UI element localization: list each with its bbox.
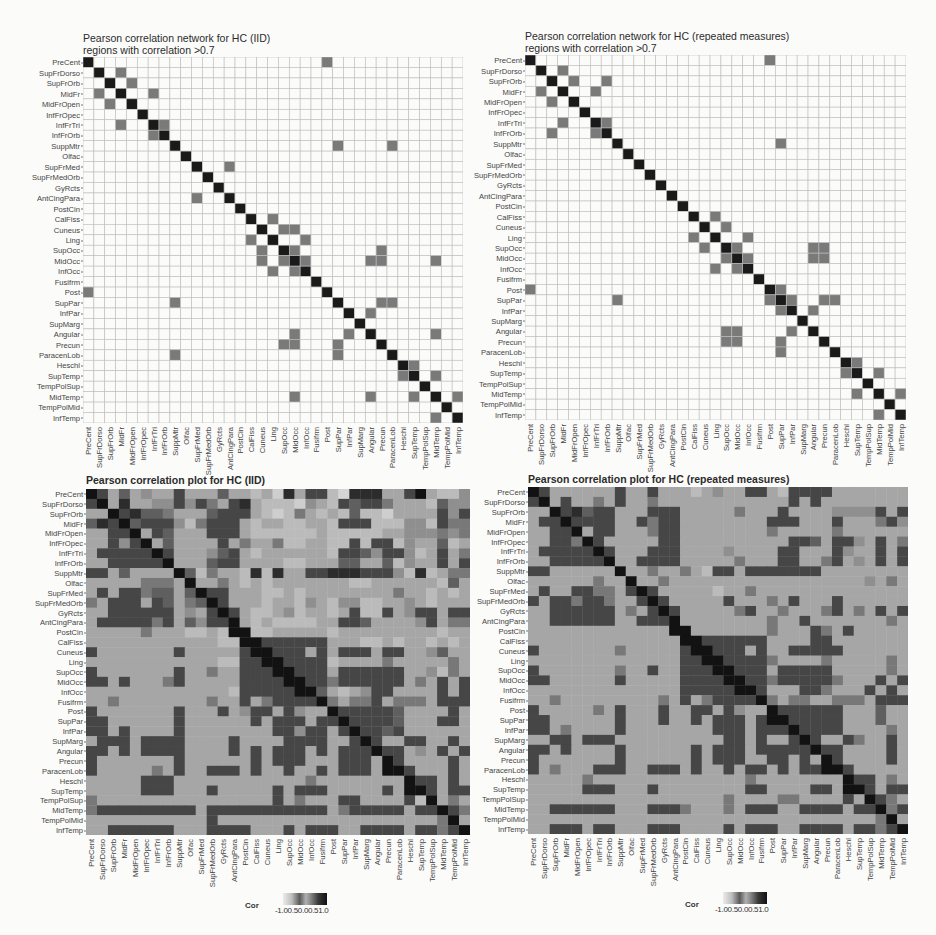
col-label: Post <box>766 424 775 439</box>
network-iid-row-labels: PreCentSupFrDorsoSupFrOrbMidFrMidFrOpenI… <box>0 57 83 423</box>
row-label: SupPar <box>55 298 83 307</box>
row-label: Ling <box>511 656 528 665</box>
row-label: Ling <box>508 233 525 242</box>
row-label: Ling <box>66 236 83 245</box>
row-label: Angular <box>499 745 528 754</box>
row-label: InfPar <box>502 306 525 315</box>
row-label: Fusifrm <box>500 696 528 705</box>
row-label: MidFr <box>64 519 86 528</box>
col-label: SupPar <box>779 838 788 863</box>
row-label: Post <box>65 288 83 297</box>
col-label: Olfac <box>186 839 195 857</box>
row-label: Heschl <box>60 776 86 785</box>
row-label: Heschl <box>502 775 528 784</box>
row-label: MidTemp <box>49 392 83 401</box>
col-label: Angular <box>373 839 382 865</box>
col-label: SupFrMed <box>635 424 644 459</box>
col-label: SupPar <box>334 427 343 452</box>
col-label: Olfac <box>624 424 633 442</box>
col-label: PreCent <box>529 838 538 866</box>
col-label: SupOcc <box>725 838 734 865</box>
col-label: AntCingPara <box>230 839 239 882</box>
row-label: TempPolSup <box>37 382 83 391</box>
row-label: ParacenLob <box>481 348 525 357</box>
row-label: SupFrMedOrb <box>32 173 83 182</box>
row-label: Fusifrm <box>55 277 83 286</box>
title-line-1: Pearson correlation network for HC (IID) <box>83 32 270 44</box>
row-label: Fusifrm <box>497 275 525 284</box>
legend-ticks: -1.00.50.00.51.0 <box>715 905 768 914</box>
col-label: Post <box>329 839 338 854</box>
col-label: SupFrDorso <box>98 839 107 880</box>
col-label: SupTemp <box>855 838 864 870</box>
row-label: TempPolMid <box>41 816 86 825</box>
col-label: SuppMtr <box>175 839 184 868</box>
col-label: InfTemp <box>897 424 906 451</box>
row-label: Heschl <box>57 361 83 370</box>
col-label: Olfac <box>182 427 191 445</box>
row-label: Heschl <box>499 358 525 367</box>
row-label: Olfac <box>507 577 528 586</box>
col-label: Fusifrm <box>318 839 327 864</box>
row-label: MidTemp <box>52 806 86 815</box>
col-label: MidOcc <box>736 838 745 864</box>
row-label: InfFrOrb <box>494 129 525 138</box>
row-label: InfFrOrb <box>497 557 528 566</box>
col-label: TempPolMid <box>886 424 895 466</box>
row-label: InfOcc <box>58 267 83 276</box>
row-label: InfFrOpec <box>491 537 528 546</box>
row-label: InfFrTri <box>59 549 86 558</box>
row-label: SupPar <box>497 296 525 305</box>
col-label: Post <box>323 427 332 442</box>
row-label: MidOcc <box>499 676 528 685</box>
col-label: TempPolMid <box>443 427 452 469</box>
col-label: CalFiss <box>247 427 256 452</box>
row-label: InfFrTri <box>498 118 525 127</box>
title-line-1: Pearson correlation network for HC (repe… <box>525 30 789 42</box>
col-label: InfPar <box>788 424 797 444</box>
row-label: SupMarg <box>494 735 528 744</box>
col-label: MidFrOpen <box>128 427 137 465</box>
row-label: InfOcc <box>500 264 525 273</box>
correlation-iid-matrix <box>86 489 470 835</box>
row-label: TempPolSup <box>40 796 86 805</box>
row-label: InfFrTri <box>56 120 83 129</box>
col-label: Cuneus <box>703 838 712 864</box>
col-label: SupMarg <box>799 424 808 455</box>
row-label: SupTemp <box>490 369 525 378</box>
row-label: TempPolSup <box>479 379 525 388</box>
row-label: InfOcc <box>503 686 528 695</box>
row-label: InfFrOpec <box>488 108 525 117</box>
col-label: InfFrTri <box>595 838 604 862</box>
col-label: Fusifrm <box>757 838 766 863</box>
col-label: SupOcc <box>285 839 294 866</box>
col-label: InfTemp <box>454 427 463 454</box>
col-label: Ling <box>269 427 278 441</box>
row-label: PreCent <box>497 487 528 496</box>
col-label: InfPar <box>790 838 799 858</box>
col-label: Heschl <box>844 838 853 861</box>
correlation-iid-row-labels: PreCentSupFrDorsoSupFrOrbMidFrMidFrOpenI… <box>0 489 86 835</box>
col-label: Post <box>768 838 777 853</box>
row-label: SupOcc <box>56 667 86 676</box>
matrix-svg <box>525 55 906 420</box>
row-label: Angular <box>54 330 83 339</box>
row-label: Fusifrm <box>58 697 86 706</box>
row-label: AntCingPara <box>40 618 86 627</box>
legend-colorbar <box>723 892 767 904</box>
col-label: SuppMtr <box>171 427 180 456</box>
col-label: InfTemp <box>899 838 908 865</box>
network-rm-col-labels: PreCentSupFrDorsoSupFrOrbMidFrMidFrOpenI… <box>525 424 906 470</box>
row-label: GyRcts <box>55 183 83 192</box>
row-label: SuppMtr <box>493 139 525 148</box>
row-label: TempPolSup <box>482 795 528 804</box>
col-label: MidFr <box>120 839 129 858</box>
col-label: SupPar <box>340 839 349 864</box>
row-label: InfPar <box>63 727 86 736</box>
col-label: SupFrOrb <box>551 838 560 871</box>
row-label: InfFrOpec <box>46 110 83 119</box>
col-label: TempPolMid <box>450 839 459 881</box>
row-label: SupPar <box>58 717 86 726</box>
row-label: InfTemp <box>56 826 86 835</box>
col-label: PostCin <box>236 427 245 454</box>
